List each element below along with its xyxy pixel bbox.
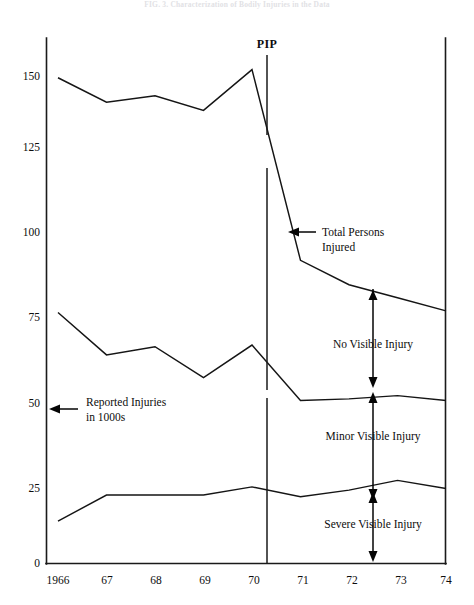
total-persons-label-line2: Injured bbox=[322, 241, 355, 254]
annotation-total-persons-injured: Total Persons Injured bbox=[288, 226, 385, 254]
pip-marker-group: PIP bbox=[257, 37, 278, 563]
x-tick-labels: 1966 67 68 69 70 71 72 73 74 bbox=[47, 574, 453, 586]
data-series-group bbox=[58, 70, 446, 522]
reported-injuries-label-line2: in 1000s bbox=[86, 411, 126, 423]
x-tick-71: 71 bbox=[297, 574, 309, 586]
series-total-persons-injured bbox=[58, 70, 446, 311]
x-tick-70: 70 bbox=[248, 574, 260, 586]
series-severe-boundary bbox=[58, 480, 446, 521]
y-tick-75: 75 bbox=[29, 311, 41, 323]
minor-visible-injury-label: Minor Visible Injury bbox=[326, 430, 421, 443]
x-tick-74: 74 bbox=[440, 574, 452, 586]
x-tick-69: 69 bbox=[199, 574, 211, 586]
annotation-no-visible-injury: No Visible Injury bbox=[333, 289, 413, 388]
x-tick-73: 73 bbox=[395, 574, 407, 586]
y-tick-100: 100 bbox=[23, 226, 41, 238]
series-minor-severe-boundary bbox=[58, 312, 446, 400]
y-tick-150: 150 bbox=[23, 70, 41, 82]
y-tick-125: 125 bbox=[23, 141, 41, 153]
severe-visible-arrow-head-down bbox=[369, 551, 378, 562]
x-tick-72: 72 bbox=[346, 574, 358, 586]
severe-visible-arrow-head-up bbox=[369, 492, 378, 503]
y-tick-50: 50 bbox=[29, 397, 41, 409]
reported-injuries-label-line1: Reported Injuries bbox=[86, 396, 167, 409]
y-tick-0: 0 bbox=[34, 557, 40, 569]
no-visible-arrow-head-down bbox=[369, 377, 378, 388]
annotation-reported-injuries: Reported Injuries in 1000s bbox=[49, 396, 167, 423]
x-tick-67: 67 bbox=[101, 574, 113, 586]
figure-container: FIG. 3. Characterization of Bodily Injur… bbox=[0, 0, 474, 605]
annotation-minor-visible-injury: Minor Visible Injury bbox=[326, 392, 421, 500]
x-tick-1966: 1966 bbox=[47, 574, 70, 586]
y-tick-labels: 0 25 50 75 100 125 150 bbox=[23, 70, 41, 569]
chart-svg: 0 25 50 75 100 125 150 1966 67 68 69 70 … bbox=[0, 0, 474, 605]
no-visible-injury-label: No Visible Injury bbox=[333, 338, 413, 351]
total-persons-label-line1: Total Persons bbox=[322, 226, 385, 238]
axes-group bbox=[46, 38, 446, 564]
annotation-severe-visible-injury: Severe Visible Injury bbox=[324, 492, 422, 562]
reported-injuries-arrow-head bbox=[49, 405, 60, 414]
severe-visible-injury-label: Severe Visible Injury bbox=[324, 518, 422, 531]
x-tick-68: 68 bbox=[150, 574, 162, 586]
pip-label: PIP bbox=[257, 37, 278, 51]
y-tick-25: 25 bbox=[29, 482, 41, 494]
